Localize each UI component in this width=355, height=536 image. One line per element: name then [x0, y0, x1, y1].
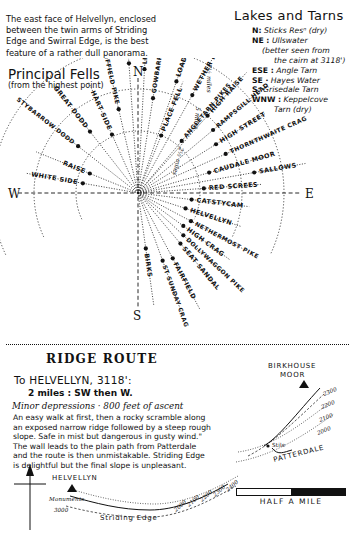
peak-marker	[214, 142, 218, 146]
ridge-crest-line	[74, 476, 238, 504]
peak-label: SHEFFIELD PIKE	[101, 58, 122, 105]
panorama-diagram: STYBARROW DODDGREAT DODDHART SIDESHEFFIE…	[0, 58, 355, 348]
scale-label: HALF A MILE	[236, 497, 346, 506]
contour-label: 2000	[315, 425, 332, 436]
peak-marker	[151, 96, 155, 100]
inset-moor-label: BIRKHOUSE	[268, 362, 316, 370]
profile-monuments-label: Monuments	[48, 496, 84, 502]
cardinal-west: W	[8, 187, 21, 201]
ridge-route-line: slope. Safe in mist but dangerous in gus…	[13, 432, 235, 442]
peak-marker	[76, 144, 80, 148]
peak-marker	[174, 79, 178, 83]
peak-label: RED SCREES	[209, 181, 259, 192]
contour-label: 2100	[185, 493, 201, 508]
peak-marker	[161, 259, 165, 263]
lake-direction: NE :	[252, 36, 269, 45]
contour-label: 2200	[319, 399, 336, 410]
scale-segment-light	[237, 489, 291, 495]
contour-label: 2200	[198, 488, 214, 503]
bearing-ray	[36, 152, 138, 193]
peak-marker	[181, 233, 185, 237]
ridge-route-distance: 2 miles : SW then W.	[28, 388, 133, 398]
peak-marker	[189, 197, 193, 201]
inset-contour-labels: 2300220021002000	[315, 386, 338, 436]
lake-direction: N:	[252, 26, 262, 35]
peak-marker	[181, 224, 185, 228]
ridge-route-line: An easy walk at first, then a rocky scra…	[13, 413, 235, 423]
peak-marker	[252, 170, 256, 174]
stile-marker	[266, 444, 269, 447]
lake-entry: NE : Ullswater	[236, 36, 354, 46]
inset-stile-label: Stile	[272, 442, 286, 448]
ridge-route-line: and the route is then unmistakable. Stri…	[13, 451, 235, 461]
inset-map: BIRKHOUSE MOOR Stile PATTERDALE 23002200…	[228, 352, 355, 467]
peak-label: SALLOWS	[258, 161, 297, 175]
peak-label: LITTLE MELL FELL	[141, 58, 152, 64]
peak-marker	[88, 129, 92, 133]
elevation-profile-diagram: HELVELLYN Monuments 3000 Striding Edge 2…	[0, 462, 240, 536]
lake-name: Sticks Resⁿ (dry)	[264, 26, 327, 35]
contour-label: 2000	[172, 498, 188, 513]
peak-marker	[202, 186, 206, 190]
profile-summit-label: HELVELLYN	[52, 474, 98, 482]
moor-summit-triangle-icon	[299, 380, 309, 388]
profile-elevation-label: 3000	[54, 507, 69, 513]
summit-triangle-icon	[67, 484, 77, 492]
lake-name: Ullswater	[272, 36, 308, 45]
peak-marker	[178, 241, 182, 245]
peak-label: RAISE	[62, 159, 87, 175]
peak-label: PLACE FELL	[159, 86, 184, 132]
lake-entry: N: Sticks Resⁿ (dry)	[236, 26, 354, 36]
distance-ring-label: 7½ miles	[206, 64, 213, 93]
distance-ring-label: 5 miles	[193, 107, 202, 130]
peak-marker	[117, 107, 121, 111]
distance-ring	[0, 58, 284, 255]
peak-marker	[127, 61, 131, 65]
intro-line: Edge and Swirral Edge, is the best	[6, 36, 186, 47]
north-arrow-icon	[14, 464, 46, 530]
peak-marker	[144, 246, 148, 250]
lake-entry: (better seen from	[236, 46, 354, 56]
peak-marker	[88, 171, 92, 175]
ridge-route-ascent: Minor depressions · 800 feet of ascent	[12, 401, 183, 411]
peak-marker	[190, 93, 194, 97]
peak-marker	[183, 206, 187, 210]
peak-label: GREAT MELL FELL	[121, 58, 133, 59]
intro-line: The east face of Helvellyn, enclosed	[6, 14, 186, 25]
peak-label: LOADPOT HILL	[174, 58, 200, 78]
profile-ridge-label: Striding Edge	[100, 514, 158, 522]
intro-line: between the twin arms of Striding	[6, 25, 186, 36]
intro-paragraph: The east face of Helvellyn, enclosed bet…	[6, 14, 186, 59]
ridge-route-title: RIDGE ROUTE	[46, 352, 158, 366]
lake-note: (better seen from	[262, 46, 330, 55]
peak-marker	[211, 128, 215, 132]
peak-marker	[207, 171, 211, 175]
peak-marker	[224, 152, 228, 156]
scale-bar-graphic	[236, 488, 346, 496]
peak-marker	[180, 139, 184, 143]
peak-label: GOWBARROW FELL	[150, 58, 168, 94]
contour-label: 2100	[317, 412, 334, 423]
peak-label: BIRKS	[143, 253, 154, 278]
section-divider	[6, 344, 349, 345]
peak-marker	[159, 133, 163, 137]
ridge-route-line: an exposed narrow ridge followed by a st…	[13, 423, 235, 433]
inset-ridge-line	[264, 388, 320, 446]
scale-bar: HALF A MILE	[236, 488, 346, 506]
cardinal-east: E	[305, 187, 314, 201]
peak-label: WHITE SIDE	[31, 170, 79, 186]
contour-label: 2300	[321, 386, 338, 397]
inset-moor-label2: MOOR	[280, 371, 305, 379]
peak-marker	[189, 219, 193, 223]
peak-marker	[171, 256, 175, 260]
cardinal-south: S	[133, 309, 141, 323]
scale-segment-dark	[291, 489, 345, 495]
peak-marker	[81, 181, 85, 185]
lakes-and-tarns-title: Lakes and Tarns	[234, 8, 344, 23]
cardinal-north: N	[133, 65, 144, 79]
peak-label: CATSTYCAM	[196, 196, 244, 210]
ridge-route-destination: To HELVELLYN, 3118':	[14, 374, 132, 386]
peak-label: THORNTHWAITE CRAG	[229, 114, 308, 154]
peak-label: GREAT DODD	[52, 84, 90, 130]
ridge-route-line: The wall leads to the plain path from Pa…	[13, 442, 235, 452]
